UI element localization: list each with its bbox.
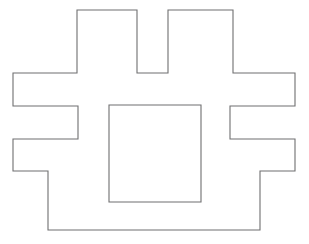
shape-diagram [0,0,309,244]
inner-square [109,105,201,202]
outer-polygon [13,10,295,230]
drawing-canvas [0,0,309,244]
